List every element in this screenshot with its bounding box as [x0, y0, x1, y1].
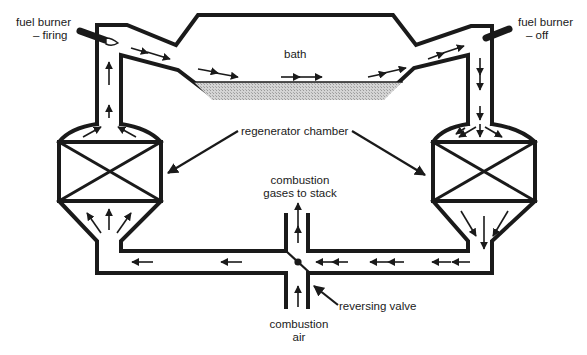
stack-label: combustion gases to stack	[258, 174, 342, 200]
bath-label: bath	[284, 48, 306, 61]
reversing-valve-label: reversing valve	[339, 300, 416, 313]
regenerator-chamber-label: regenerator chamber	[241, 125, 348, 138]
fuel-burner-right-label-line2: – off	[518, 29, 573, 42]
fuel-burner-right-label: fuel burner – off	[518, 16, 573, 42]
fuel-burner-left-label-line1: fuel burner	[16, 16, 71, 29]
combustion-air-label: combustion air	[259, 318, 339, 344]
stack-label-line1: combustion	[258, 174, 342, 187]
fuel-burner-right	[486, 29, 509, 38]
fuel-burner-right-label-line1: fuel burner	[518, 16, 573, 29]
outer-duct-top	[97, 15, 492, 124]
bath	[194, 82, 402, 100]
leader-arrows	[168, 131, 425, 305]
bottom-duct	[97, 215, 492, 307]
fuel-burner-left-label: fuel burner – firing	[16, 16, 71, 42]
combustion-air-label-line2: air	[259, 331, 339, 344]
fuel-burner-left-label-line2: – firing	[16, 29, 71, 42]
combustion-air-label-line1: combustion	[259, 318, 339, 331]
reversing-valve[interactable]	[286, 251, 310, 273]
stack-label-line2: gases to stack	[258, 187, 342, 200]
